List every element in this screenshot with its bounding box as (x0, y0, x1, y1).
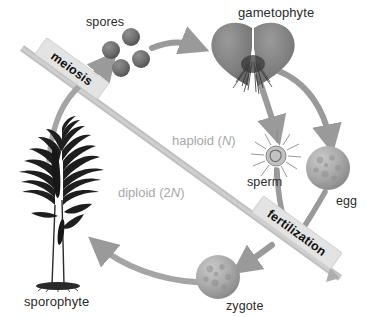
spores-label: spores (86, 16, 124, 29)
arrow-fertilization-to-zygote (243, 245, 272, 266)
egg-label: egg (336, 195, 357, 208)
fern-life-cycle-diagram: meiosis fertilization spores gametophyte… (0, 0, 368, 317)
egg-illustration (306, 146, 350, 190)
haploid-region-label: haploid (N) (172, 134, 236, 147)
gametophyte-illustration (211, 23, 294, 94)
sperm-label: sperm (247, 176, 282, 189)
arrow-spores-to-gametophyte (152, 43, 196, 49)
zygote-illustration (196, 255, 240, 299)
sporophyte-label: sporophyte (24, 295, 89, 308)
sporophyte-illustration (19, 116, 104, 292)
arrow-zygote-to-sporophyte (99, 246, 196, 282)
zygote-label: zygote (226, 300, 263, 313)
arrow-gametophyte-to-egg (276, 70, 330, 140)
gametophyte-label: gametophyte (238, 6, 314, 19)
spores-group (102, 28, 150, 77)
diploid-region-label: diploid (2N) (118, 186, 185, 199)
